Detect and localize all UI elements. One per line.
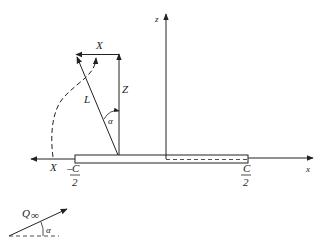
x-axis-label: x bbox=[305, 164, 310, 174]
left-chord-denominator: 2 bbox=[72, 176, 78, 188]
axial-force-label-bottom: X bbox=[49, 161, 58, 173]
airfoil-force-diagram: z x Z X L α X − C 2 C 2 Q ∞ α bbox=[0, 0, 327, 247]
axial-force-label-top: X bbox=[95, 39, 104, 51]
right-chord-denominator: 2 bbox=[243, 176, 249, 188]
left-chord-numerator: C bbox=[72, 162, 80, 174]
normal-force-label: Z bbox=[122, 83, 129, 95]
freestream-angle-arc bbox=[41, 222, 43, 236]
freestream-label: Q bbox=[22, 207, 30, 219]
z-axis-label: z bbox=[154, 14, 159, 24]
airfoil-chord-plate bbox=[75, 155, 248, 163]
freestream-subscript: ∞ bbox=[31, 209, 39, 221]
angle-label: α bbox=[108, 116, 113, 126]
lift-label: L bbox=[83, 93, 90, 105]
dashed-trajectory-curve bbox=[52, 58, 96, 157]
lift-vector bbox=[77, 57, 118, 155]
right-chord-numerator: C bbox=[243, 162, 251, 174]
freestream-angle-label: α bbox=[46, 225, 51, 235]
